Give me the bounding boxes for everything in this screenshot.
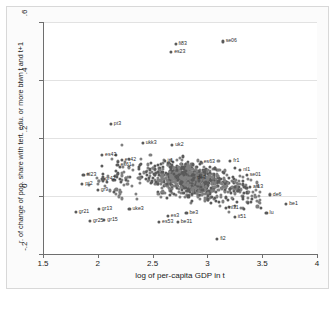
point-label: de3 — [197, 175, 206, 180]
point-label: de6 — [273, 192, 282, 197]
point-label: fr1 — [233, 159, 239, 164]
point-label: gr15 — [107, 217, 117, 222]
point-label: ukk3 — [146, 140, 157, 145]
x-tick — [98, 254, 99, 258]
x-tick-label: 4 — [315, 259, 319, 268]
plot-region: fi83es23se06pt3ukk3uk2es43es42es61nl23pt… — [43, 22, 317, 254]
point-label: gr25 — [93, 219, 103, 224]
x-tick — [43, 254, 44, 258]
point-label: gr9 — [101, 187, 109, 192]
point-label: be1 — [289, 202, 298, 207]
point-label: it51 — [238, 214, 246, 219]
point-label: pt3 — [114, 121, 121, 126]
point-label: gr42 — [105, 177, 115, 182]
x-tick-label: 2.5 — [147, 259, 158, 268]
point-label: uke3 — [132, 206, 143, 211]
point-label: se06 — [226, 39, 237, 44]
x-tick — [262, 254, 263, 258]
x-tick-label: 1.5 — [37, 259, 48, 268]
y-axis-title: r. of change of pop. share with tert. ed… — [16, 27, 25, 259]
point-label: it1 — [168, 159, 173, 164]
y-tick — [39, 80, 43, 81]
point-label: at13 — [253, 185, 263, 190]
point-label: uk2 — [175, 143, 183, 148]
point-label: nl31 — [229, 206, 239, 211]
point-label: fi2 — [220, 236, 225, 241]
point-label: es53 — [162, 219, 173, 224]
point-label: be3 — [189, 211, 198, 216]
x-tick — [207, 254, 208, 258]
x-tick — [153, 254, 154, 258]
y-tick — [39, 138, 43, 139]
x-tick-label: 2 — [96, 259, 100, 268]
point-label: es63 — [204, 159, 215, 164]
point-label: lu — [269, 210, 273, 215]
point-label: nl23 — [86, 172, 96, 177]
point-label: es61 — [120, 162, 131, 167]
y-tick — [39, 22, 43, 23]
y-tick — [39, 254, 43, 255]
point-label: gr13 — [102, 206, 112, 211]
point-label: pt2 — [85, 181, 92, 186]
x-tick — [317, 254, 318, 258]
point-label: be31 — [181, 219, 193, 224]
scatter-plot-figure: fi83es23se06pt3ukk3uk2es43es42es61nl23pt… — [0, 0, 335, 312]
y-tick — [39, 196, 43, 197]
x-axis-line — [43, 254, 317, 255]
point-label: es23 — [174, 49, 185, 54]
point-label: es3 — [171, 213, 179, 218]
point-label: se01 — [250, 172, 261, 177]
x-axis-title: log of per-capita GDP in t — [43, 271, 317, 280]
point-label: es43 — [105, 152, 116, 157]
data-label-layer: fi83es23se06pt3ukk3uk2es43es42es61nl23pt… — [44, 22, 317, 254]
point-label: fi83 — [179, 41, 187, 46]
point-label: gr21 — [79, 209, 89, 214]
x-tick-label: 3.5 — [257, 259, 268, 268]
x-tick-label: 3 — [205, 259, 209, 268]
